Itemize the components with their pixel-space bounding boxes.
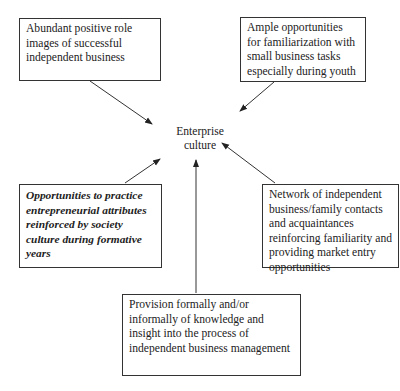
arrow-role-images xyxy=(90,81,152,124)
box-network: Network of independent business/family c… xyxy=(262,184,399,268)
box-practice-opportunities: Opportunities to practice entrepreneuria… xyxy=(19,184,162,268)
center-label-line1: Enterprise xyxy=(160,125,240,139)
box-familiarization: Ample opportunities for familiarization … xyxy=(240,17,366,82)
box-network-text: Network of independent business/family c… xyxy=(269,188,392,274)
center-label-line2: culture xyxy=(160,139,240,153)
arrow-practice-opportunities xyxy=(125,159,160,183)
arrow-familiarization xyxy=(240,82,274,111)
box-practice-opportunities-text: Opportunities to practice entrepreneuria… xyxy=(26,189,147,259)
box-knowledge-provision: Provision formally and/or informally of … xyxy=(122,294,301,376)
box-knowledge-provision-text: Provision formally and/or informally of … xyxy=(129,298,290,355)
box-familiarization-text: Ample opportunities for familiarization … xyxy=(247,21,356,78)
box-role-images: Abundant positive role images of success… xyxy=(19,18,161,81)
center-label-enterprise-culture: Enterprise culture xyxy=(160,125,240,153)
box-role-images-text: Abundant positive role images of success… xyxy=(26,22,132,64)
